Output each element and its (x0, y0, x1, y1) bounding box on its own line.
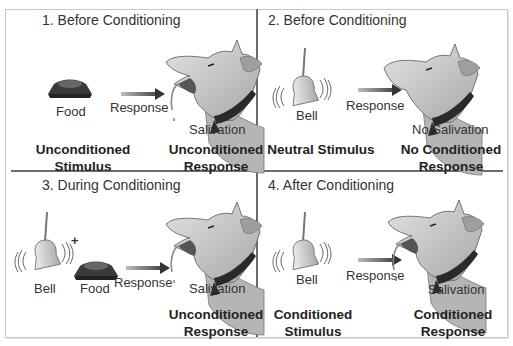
panel-title: 1. Before Conditioning (42, 12, 181, 28)
food-bowl-icon (74, 262, 118, 282)
left-caption: Unconditioned Stimulus (28, 141, 138, 175)
salivation-label: Salivation (189, 281, 245, 296)
bell-icon (290, 78, 320, 108)
right-caption: Unconditioned Response (168, 141, 264, 175)
bell-label: Bell (296, 108, 318, 123)
panel-during-conditioning: 3. During Conditioning + Bell Food Respo… (6, 172, 256, 332)
right-caption: Unconditioned Response (168, 306, 264, 340)
salivation-label: Salivation (428, 282, 484, 297)
bell-icon (32, 242, 62, 272)
left-caption: Neutral Stimulus (266, 141, 376, 158)
right-caption: Conditioned Response (408, 306, 498, 340)
bell-label: Bell (34, 281, 56, 296)
panel-before-conditioning-1: 1. Before Conditioning Food Response Sal… (6, 10, 256, 170)
response-label: Response (110, 100, 169, 115)
panel-title: 3. During Conditioning (42, 177, 181, 193)
panel-title: 4. After Conditioning (268, 177, 394, 193)
bell-label: Bell (296, 272, 318, 287)
left-caption: Conditioned Stimulus (268, 306, 358, 340)
panel-before-conditioning-2: 2. Before Conditioning Bell Response No … (258, 10, 508, 170)
salivation-label: Salivation (189, 122, 245, 137)
right-caption: No Conditioned Response (396, 141, 506, 175)
food-label: Food (80, 281, 110, 296)
plus-sign: + (71, 233, 79, 248)
food-label: Food (56, 104, 86, 119)
bell-icon (290, 242, 320, 272)
panel-after-conditioning: 4. After Conditioning Bell Response Sali… (258, 172, 508, 332)
food-bowl-icon (48, 80, 92, 100)
no-salivation-label: No Salivation (412, 122, 489, 137)
panel-title: 2. Before Conditioning (268, 12, 407, 28)
